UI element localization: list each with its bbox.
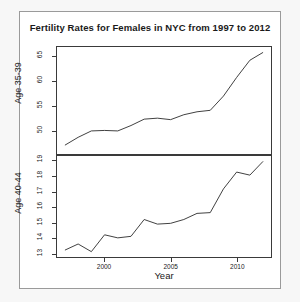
y-tick-label: 15 bbox=[36, 212, 43, 230]
panel-age-40-44 bbox=[56, 155, 272, 258]
y-tick-label: 60 bbox=[36, 71, 43, 89]
y-tick-label: 17 bbox=[36, 181, 43, 199]
series-line-age-40-44 bbox=[57, 156, 271, 257]
x-axis-label: Year bbox=[56, 270, 272, 281]
y-tick-label: 50 bbox=[36, 121, 43, 139]
y-tick-label: 14 bbox=[36, 228, 43, 246]
y-axis-label-bottom: Age 40-44 bbox=[13, 163, 23, 223]
x-tick-mark bbox=[104, 258, 105, 262]
panel-age-35-39 bbox=[56, 46, 272, 155]
x-tick-label: 2005 bbox=[156, 263, 186, 270]
y-tick-label: 65 bbox=[36, 46, 43, 64]
x-tick-label: 2010 bbox=[222, 263, 252, 270]
y-tick-label: 13 bbox=[36, 244, 43, 262]
chart-root: Fertility Rates for Females in NYC from … bbox=[0, 0, 300, 302]
y-tick-label: 55 bbox=[36, 96, 43, 114]
series-line-age-35-39 bbox=[57, 47, 271, 154]
y-axis-label-top: Age 35-39 bbox=[13, 53, 23, 113]
y-tick-label: 18 bbox=[36, 166, 43, 184]
y-tick-label: 19 bbox=[36, 150, 43, 168]
x-tick-mark bbox=[237, 258, 238, 262]
page-title: Fertility Rates for Females in NYC from … bbox=[19, 22, 281, 33]
x-tick-label: 2000 bbox=[89, 263, 119, 270]
x-tick-mark bbox=[171, 258, 172, 262]
